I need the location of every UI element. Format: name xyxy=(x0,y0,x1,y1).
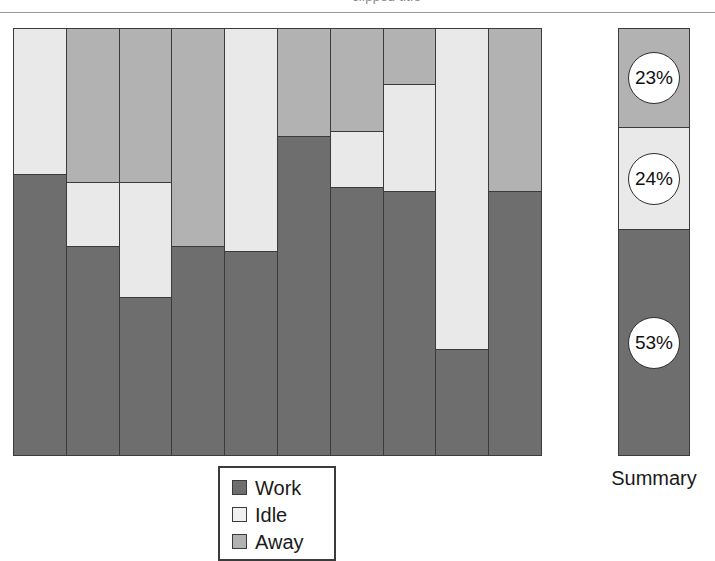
bar-2 xyxy=(67,29,120,455)
summary-percent-away: 23% xyxy=(628,52,680,104)
bar-5-segment-idle xyxy=(225,29,277,251)
legend-swatch-idle-icon xyxy=(232,507,247,522)
bar-9-segment-work xyxy=(436,349,488,456)
summary-stacked-bar: 23%24%53% xyxy=(618,28,690,456)
bar-7-segment-work xyxy=(331,187,383,455)
legend-label-work: Work xyxy=(255,478,301,498)
bar-8-segment-work xyxy=(384,191,436,455)
legend-item-work: Work xyxy=(232,474,334,501)
bar-1 xyxy=(14,29,67,455)
legend-item-away: Away xyxy=(232,528,334,555)
legend-label-away: Away xyxy=(255,532,304,552)
cropped-header-label: clipped title xyxy=(352,0,421,4)
summary-segment-work: 53% xyxy=(619,229,689,455)
bar-6-segment-work xyxy=(278,136,330,456)
bar-10-segment-work xyxy=(489,191,541,455)
bar-4-segment-away xyxy=(172,29,224,246)
bar-10-segment-away xyxy=(489,29,541,191)
header-divider xyxy=(0,12,715,13)
bar-2-segment-work xyxy=(67,246,119,455)
bar-10 xyxy=(489,29,541,455)
summary-percent-idle: 24% xyxy=(628,153,680,205)
bar-4-segment-work xyxy=(172,246,224,455)
bar-5-segment-work xyxy=(225,251,277,455)
bar-2-segment-away xyxy=(67,29,119,182)
bar-4 xyxy=(172,29,225,455)
bar-9 xyxy=(436,29,489,455)
legend-item-idle: Idle xyxy=(232,501,334,528)
bar-1-segment-idle xyxy=(14,29,66,174)
bar-8 xyxy=(384,29,437,455)
bar-7-segment-away xyxy=(331,29,383,131)
bar-8-segment-idle xyxy=(384,84,436,191)
bar-5 xyxy=(225,29,278,455)
summary-label: Summary xyxy=(600,467,708,490)
legend-label-idle: Idle xyxy=(255,505,287,525)
legend-swatch-work-icon xyxy=(232,480,247,495)
bar-3-segment-away xyxy=(120,29,172,182)
bar-8-segment-away xyxy=(384,29,436,84)
bar-6-segment-away xyxy=(278,29,330,136)
summary-segment-away: 23% xyxy=(619,29,689,127)
bar-9-segment-idle xyxy=(436,29,488,349)
summary-column: 23%24%53% Summary xyxy=(600,28,708,490)
bar-3-segment-idle xyxy=(120,182,172,297)
bar-3-segment-work xyxy=(120,297,172,455)
bar-1-segment-work xyxy=(14,174,66,455)
bar-2-segment-idle xyxy=(67,182,119,246)
bar-7 xyxy=(331,29,384,455)
bar-6 xyxy=(278,29,331,455)
bar-3 xyxy=(120,29,173,455)
stacked-bar-chart xyxy=(13,28,542,456)
summary-segment-idle: 24% xyxy=(619,127,689,229)
summary-percent-work: 53% xyxy=(628,317,680,369)
chart-legend: WorkIdleAway xyxy=(218,466,336,561)
bar-7-segment-idle xyxy=(331,131,383,186)
legend-swatch-away-icon xyxy=(232,534,247,549)
